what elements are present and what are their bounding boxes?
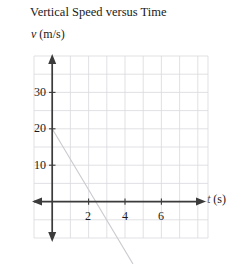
chart-page: Vertical Speed versus Time v (m/s) t (s) — [0, 0, 240, 264]
y-axis — [48, 54, 56, 242]
x-tick-label-2: 2 — [79, 210, 97, 222]
axis-tick-marks — [49, 92, 161, 204]
y-tick-label-30: 30 — [26, 86, 46, 98]
y-tick-label-10: 10 — [26, 159, 46, 171]
x-tick-label-6: 6 — [152, 210, 170, 222]
y-tick-label-20: 20 — [26, 122, 46, 134]
x-tick-label-4: 4 — [116, 210, 134, 222]
data-line-series-vertical-speed — [52, 129, 133, 264]
